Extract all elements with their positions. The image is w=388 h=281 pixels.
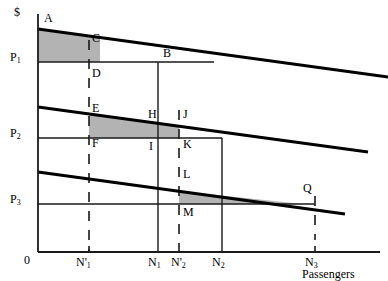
x-tick-label-nprime1: N'1 [76, 256, 91, 268]
chart-canvas [0, 0, 388, 281]
x-tick-n2-main: N [212, 255, 221, 269]
x-axis-title: Passengers [302, 268, 355, 280]
x-tick-n1-sub: 1 [157, 261, 161, 270]
y-tick-label-p3: P3 [10, 193, 21, 205]
point-label-i: I [149, 140, 153, 152]
x-tick-nprime1-sub: 1 [87, 261, 91, 270]
y-tick-label-p2: P2 [10, 127, 21, 139]
x-tick-nprime2-main: N' [171, 255, 182, 269]
dashed-guides [89, 40, 315, 252]
point-label-c: C [92, 32, 100, 44]
point-label-k: K [183, 138, 192, 150]
y-tick-p1-sub: 1 [17, 56, 21, 65]
price-discrimination-diagram: $ P1 P2 P3 0 N'1 N1 N'2 N2 N3 Passengers… [0, 0, 388, 281]
x-tick-label-n2: N2 [212, 256, 225, 268]
y-axis-title: $ [14, 6, 20, 18]
point-label-h: H [148, 108, 157, 120]
x-tick-n2-sub: 2 [221, 261, 225, 270]
demand-segment-2 [38, 107, 368, 152]
point-label-l: L [183, 168, 190, 180]
x-tick-n1-main: N [148, 255, 157, 269]
x-tick-label-n1: N1 [148, 256, 161, 268]
y-tick-p1-main: P [10, 50, 17, 64]
point-label-q: Q [303, 182, 312, 194]
y-tick-p2-main: P [10, 126, 17, 140]
point-label-m: M [183, 206, 194, 218]
point-label-e: E [92, 102, 99, 114]
x-tick-nprime2-sub: 2 [182, 261, 186, 270]
quantity-lines [158, 62, 222, 252]
y-tick-p3-sub: 3 [17, 198, 21, 207]
point-label-j: J [183, 108, 188, 120]
x-tick-label-nprime2: N'2 [171, 256, 186, 268]
x-tick-nprime1-main: N' [76, 255, 87, 269]
point-label-d: D [92, 67, 101, 79]
y-tick-p3-main: P [10, 192, 17, 206]
y-tick-label-p1: P1 [10, 51, 21, 63]
y-tick-p2-sub: 2 [17, 132, 21, 141]
point-label-a: A [44, 12, 53, 24]
origin-label: 0 [24, 254, 30, 266]
point-label-b: B [163, 47, 171, 59]
point-label-f: F [92, 137, 99, 149]
